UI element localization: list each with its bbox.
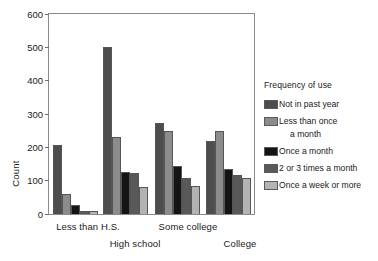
legend-items: Not in past yearLess than oncea monthOnc… [264,99,376,190]
legend-label: Once a month [278,146,333,156]
legend-label: Less than oncea month [278,116,337,139]
legend-item: Less than oncea month [264,116,376,139]
legend-label: Once a week or more [278,180,361,190]
bar [224,169,233,214]
legend-item: Not in past year [264,99,376,109]
bar [130,173,139,214]
bar [112,137,121,214]
bar [191,186,200,214]
legend-label: Not in past year [278,99,339,109]
bar [164,131,173,214]
y-tick-label: 500 [5,43,43,52]
bar [182,178,191,214]
bar-group [103,14,148,214]
legend-title: Frequency of use [264,80,376,90]
bar-group [155,14,200,214]
bar [62,194,71,214]
bar [89,211,98,214]
legend-swatch [264,147,278,156]
legend-item: 2 or 3 times a month [264,163,376,173]
x-tick-label: Some college [148,221,228,232]
bar-chart-figure: Count 0100200300400500600 Less than H.S.… [0,0,378,261]
bar [155,123,164,214]
legend-label: 2 or 3 times a month [278,163,357,173]
legend-label-continuation: a month [279,129,337,139]
bar [121,172,130,214]
y-tick-label: 0 [5,210,43,219]
x-tick-label: Less than H.S. [48,221,128,232]
y-tick-label: 100 [5,176,43,185]
bar [71,205,80,214]
y-tick-mark [45,80,49,81]
legend-swatch [264,164,278,173]
bar-group [206,14,251,214]
plot-inner: 0100200300400500600 [49,14,254,214]
y-tick-mark [45,180,49,181]
bar [233,175,242,214]
bar-group [53,14,98,214]
legend-swatch [264,100,278,109]
bar [242,178,251,214]
y-tick-label: 600 [5,10,43,19]
bar [206,141,215,214]
legend-swatch [264,117,278,126]
y-tick-label: 400 [5,76,43,85]
bar [215,131,224,214]
y-tick-mark [45,14,49,15]
plot-area: 0100200300400500600 [48,13,255,215]
bar [103,47,112,214]
y-tick-mark [45,147,49,148]
x-tick-label: College [205,238,275,249]
y-tick-mark [45,47,49,48]
bar [53,145,62,214]
legend-swatch [264,181,278,190]
legend-item: Once a week or more [264,180,376,190]
bar [80,211,89,214]
bar [173,166,182,214]
y-tick-mark [45,114,49,115]
y-tick-label: 300 [5,110,43,119]
legend: Frequency of use Not in past yearLess th… [264,80,376,197]
y-tick-label: 200 [5,143,43,152]
legend-item: Once a month [264,146,376,156]
bar [139,187,148,214]
x-tick-label: High school [95,238,175,249]
y-tick-mark [45,214,49,215]
